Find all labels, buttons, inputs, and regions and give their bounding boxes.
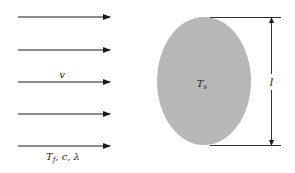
velocity-label: v	[59, 69, 65, 80]
fluid-props-rest: , c, λ	[55, 151, 80, 162]
length-label: l	[270, 76, 274, 89]
solid-body	[157, 17, 251, 145]
surface-temp-subscript: s	[204, 83, 208, 91]
flow-arrows	[18, 17, 110, 146]
fluid-properties-label: Tf, c, λ	[46, 151, 80, 164]
convection-diagram: v Tf, c, λ Ts l	[0, 0, 295, 173]
